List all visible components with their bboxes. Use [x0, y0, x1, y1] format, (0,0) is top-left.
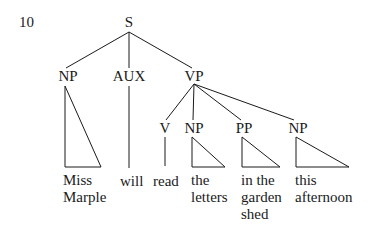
branch-s-np — [66, 32, 129, 68]
np-time-triangle — [296, 137, 349, 167]
branch-s-vp — [129, 32, 192, 68]
leaf-miss-marple: Miss Marple — [63, 172, 106, 206]
node-np-time: NP — [288, 120, 307, 136]
node-v: V — [160, 120, 171, 136]
node-np-subject: NP — [58, 68, 77, 84]
branch-vp-np — [193, 84, 194, 120]
node-aux: AUX — [113, 68, 146, 84]
leaf-read: read — [153, 173, 179, 190]
syntax-tree-figure: 10 S NP AUX VP V NP P — [0, 0, 368, 228]
branch-vp-v — [166, 84, 194, 120]
leaf-this-afternoon: this afternoon — [295, 172, 352, 206]
leaf-the-letters: the letters — [191, 172, 228, 206]
node-vp: VP — [184, 68, 203, 84]
leaf-will: will — [120, 173, 143, 190]
np-subject-triangle — [65, 86, 101, 167]
leaf-in-the-garden-shed: in the garden shed — [241, 172, 282, 223]
branch-vp-pp — [194, 84, 241, 120]
node-s: S — [125, 14, 133, 30]
np-object-triangle — [192, 137, 225, 167]
node-np-object: NP — [184, 120, 203, 136]
branch-vp-np2 — [194, 84, 294, 120]
pp-triangle — [242, 137, 280, 167]
node-pp: PP — [236, 120, 253, 136]
